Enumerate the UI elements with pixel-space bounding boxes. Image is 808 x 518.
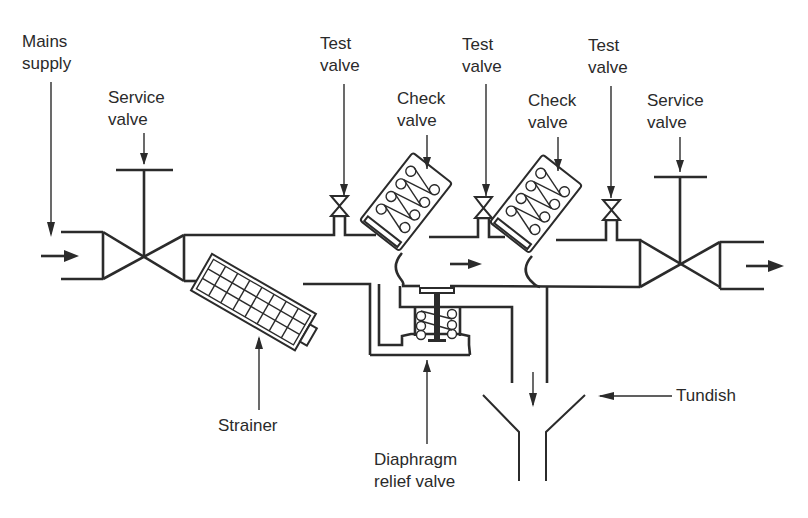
check-valve-1-seat	[396, 253, 404, 286]
label-line: relief valve	[374, 471, 457, 493]
test-valve-2-body	[475, 197, 492, 218]
label-line: valve	[647, 112, 704, 134]
label-test-valve-1: Test valve	[320, 33, 360, 77]
label-diaphragm-relief-valve: Diaphragm relief valve	[374, 449, 457, 493]
diaphragm-relief-valve-leader-arrow	[423, 360, 431, 444]
test-valve-2-leader-arrow	[482, 84, 490, 196]
label-tundish: Tundish	[676, 385, 736, 407]
label-service-valve-outlet: Service valve	[647, 90, 704, 134]
flow-arrow-middle-icon	[450, 259, 482, 269]
check-valve-2-seat	[526, 256, 540, 287]
label-line: Diaphragm	[374, 449, 457, 471]
label-test-valve-2: Test valve	[462, 34, 502, 78]
diagram-drawing	[0, 0, 808, 518]
label-line: valve	[528, 112, 576, 134]
label-line: valve	[588, 57, 628, 79]
label-line: valve	[397, 110, 445, 132]
service-valve-inlet-body	[103, 170, 184, 281]
label-test-valve-3: Test valve	[588, 35, 628, 79]
flow-arrow-inlet-icon	[41, 250, 79, 262]
strainer-body	[191, 254, 323, 354]
label-line: valve	[462, 56, 502, 78]
label-line: Mains	[22, 31, 71, 53]
label-check-valve-2: Check valve	[528, 90, 576, 134]
diaphragm-relief-valve-body	[379, 284, 547, 383]
test-valve-3-body	[603, 200, 620, 220]
test-valve-3-leader-arrow	[607, 86, 615, 198]
label-line: Test	[462, 34, 502, 56]
service-valve-inlet-leader-arrow	[140, 133, 148, 165]
label-check-valve-1: Check valve	[397, 88, 445, 132]
label-mains-supply: Mains supply	[22, 31, 71, 75]
label-line: Check	[528, 90, 576, 112]
service-valve-outlet-body	[640, 177, 764, 289]
service-valve-outlet-leader-arrow	[676, 137, 684, 172]
strainer-leader-arrow	[255, 336, 263, 410]
label-line: Service	[647, 90, 704, 112]
label-line: valve	[108, 109, 165, 131]
label-line: valve	[320, 55, 360, 77]
mains-supply-leader-arrow	[47, 82, 55, 237]
label-service-valve-inlet: Service valve	[108, 87, 165, 131]
discharge-flow-arrow-icon	[529, 372, 537, 407]
flow-arrow-outlet-icon	[746, 260, 784, 272]
tundish-body	[483, 395, 585, 481]
label-line: Check	[397, 88, 445, 110]
label-line: supply	[22, 53, 71, 75]
label-line: Service	[108, 87, 165, 109]
label-line: Test	[320, 33, 360, 55]
label-line: Test	[588, 35, 628, 57]
label-strainer: Strainer	[218, 415, 278, 437]
test-valve-1-body	[331, 196, 348, 216]
diagram-canvas: Mains supply Service valve Test valve Ch…	[0, 0, 808, 518]
tundish-leader-arrow	[598, 392, 672, 400]
test-valve-1-leader-arrow	[340, 84, 348, 196]
